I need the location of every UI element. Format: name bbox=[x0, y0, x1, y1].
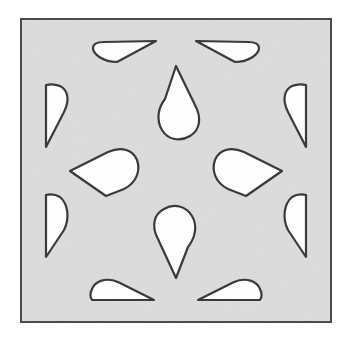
figure-container bbox=[0, 0, 357, 353]
tiling-pattern-figure bbox=[0, 0, 357, 353]
